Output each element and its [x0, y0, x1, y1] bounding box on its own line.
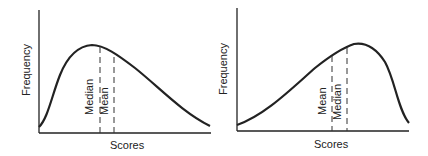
left-mean-label: Mean — [98, 87, 110, 115]
skewness-figure: Median Mean Frequency Scores Mean Median… — [0, 0, 428, 156]
left-curve — [39, 45, 210, 127]
left-x-label: Scores — [110, 139, 145, 151]
right-median-label: Median — [331, 84, 343, 120]
left-y-label: Frequency — [20, 44, 32, 96]
right-x-label: Scores — [314, 138, 349, 150]
right-y-label: Frequency — [217, 43, 229, 95]
left-chart: Median Mean Frequency Scores — [20, 10, 211, 151]
right-chart: Mean Median Frequency Scores — [217, 8, 409, 150]
right-mean-label: Mean — [316, 87, 328, 115]
left-median-label: Median — [83, 79, 95, 115]
